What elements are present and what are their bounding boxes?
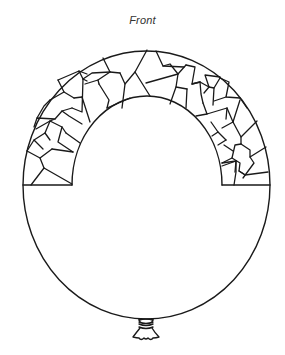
balloon-illustration (0, 0, 285, 355)
mosaic-tiles (27, 50, 268, 185)
balloon-knot (133, 319, 159, 340)
mosaic-arch-frame (23, 96, 270, 185)
